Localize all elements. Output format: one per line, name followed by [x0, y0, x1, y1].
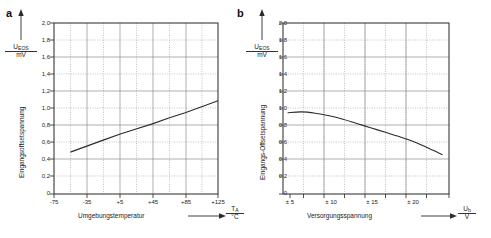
panel-b-letter: b	[237, 7, 244, 19]
plot-frame-b	[283, 23, 449, 194]
panel-b: b UEOS mV Eingangs-Offsetspannung 2,0 1,…	[245, 0, 491, 238]
panel-a: a UEOS mV Eingangsoffsetspannung 2,0 1,8…	[0, 0, 245, 238]
plot-a	[0, 0, 245, 238]
plot-b	[245, 0, 491, 238]
data-line-a	[70, 101, 218, 152]
plot-frame-a	[54, 23, 218, 194]
